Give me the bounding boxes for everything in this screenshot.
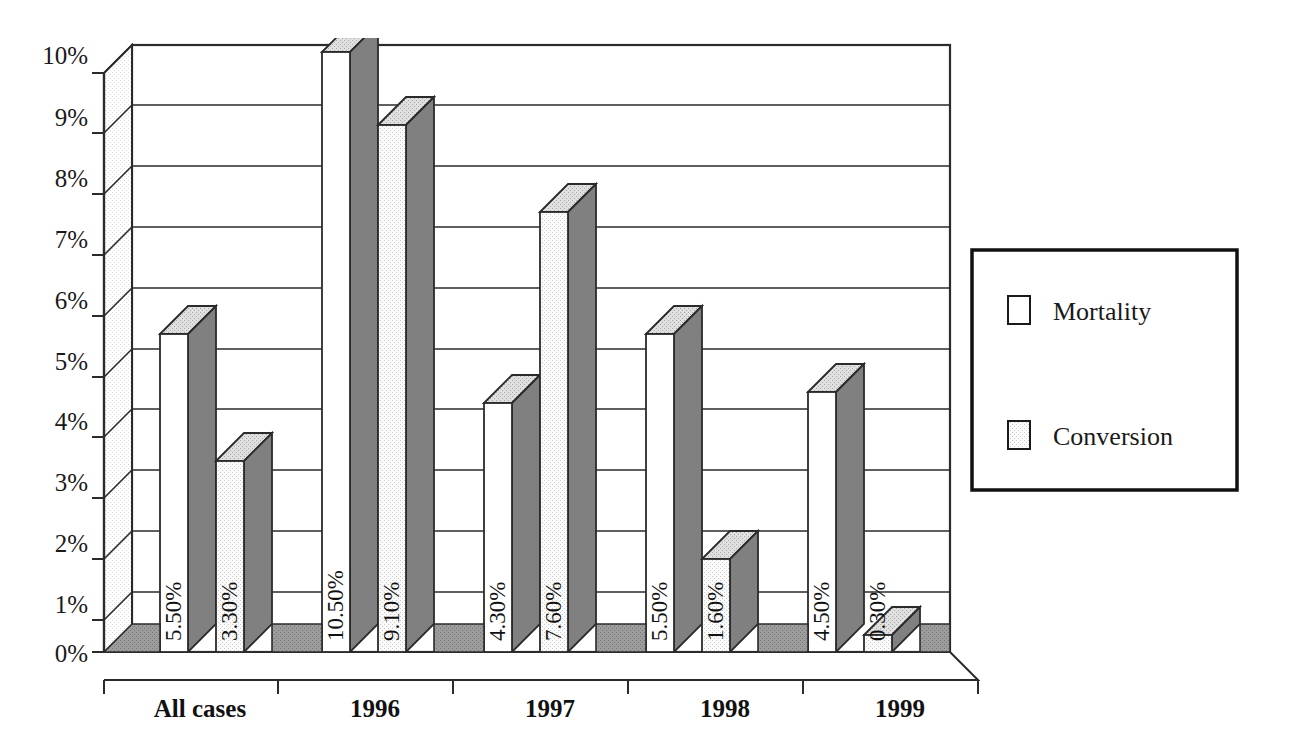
chart-floor <box>104 652 978 680</box>
x-tick-label: All cases <box>154 695 247 722</box>
legend-box <box>972 250 1237 490</box>
x-tick-label: 1996 <box>350 695 400 722</box>
bar-value-label: 7.60% <box>541 582 566 641</box>
y-tick-label: 0% <box>55 640 88 667</box>
y-tick-label: 10% <box>42 42 88 69</box>
y-tick-label: 8% <box>55 165 88 192</box>
legend-swatch-conversion <box>1008 421 1030 449</box>
x-tick-label: 1997 <box>525 695 575 722</box>
y-tick-label: 3% <box>55 469 88 496</box>
y-tick-label: 7% <box>55 226 88 253</box>
bar-value-label: 0.30% <box>865 582 890 641</box>
x-tick-label: 1999 <box>875 695 925 722</box>
bar-value-label: 4.30% <box>485 582 510 641</box>
legend-item-mortality[interactable]: Mortality <box>1008 296 1151 326</box>
bar-1996-conversion[interactable] <box>378 97 434 652</box>
bar-1996-mortality[interactable] <box>322 24 378 652</box>
bar-value-label: 5.50% <box>161 582 186 641</box>
legend-swatch-mortality <box>1008 296 1030 324</box>
y-tick-label: 2% <box>55 530 88 557</box>
legend-label-mortality: Mortality <box>1053 297 1151 326</box>
x-axis-tick-labels: All cases 1996 1997 1998 1999 <box>154 695 925 722</box>
y-axis-ticks <box>92 73 104 652</box>
y-tick-label: 5% <box>55 348 88 375</box>
bar-value-label: 9.10% <box>379 582 404 641</box>
legend-label-conversion: Conversion <box>1053 422 1173 451</box>
bar-value-label: 3.30% <box>217 582 242 641</box>
x-axis: All cases 1996 1997 1998 1999 <box>104 680 978 722</box>
x-tick-label: 1998 <box>700 695 750 722</box>
legend: Mortality Conversion <box>972 250 1237 490</box>
y-axis: 10% 9% 8% 7% 6% 5% 4% 3% 2% 1% 0% <box>42 42 104 667</box>
bar-chart-3d: 10% 9% 8% 7% 6% 5% 4% 3% 2% 1% 0% <box>0 0 1304 739</box>
bar-value-label: 5.50% <box>647 582 672 641</box>
bar-value-label: 10.50% <box>323 570 348 641</box>
y-tick-label: 1% <box>55 591 88 618</box>
y-tick-label: 6% <box>55 287 88 314</box>
chart-page: 10% 9% 8% 7% 6% 5% 4% 3% 2% 1% 0% <box>0 0 1304 739</box>
y-axis-tick-labels: 10% 9% 8% 7% 6% 5% 4% 3% 2% 1% 0% <box>42 42 88 667</box>
y-tick-label: 4% <box>55 408 88 435</box>
bar-value-label: 4.50% <box>809 582 834 641</box>
x-axis-ticks <box>104 680 978 694</box>
bar-value-label: 1.60% <box>703 582 728 641</box>
left-wall <box>104 45 132 652</box>
y-tick-label: 9% <box>55 104 88 131</box>
